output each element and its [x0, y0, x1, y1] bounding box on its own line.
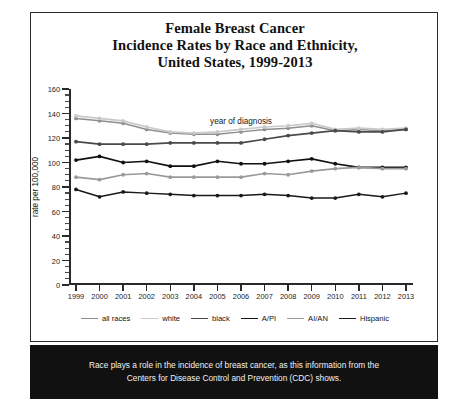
- y-tick-label: 20: [52, 256, 60, 265]
- chart-legend: all raceswhiteblackA/PIAI/ANHispanic: [31, 314, 439, 323]
- y-tick-label: 100: [48, 158, 60, 167]
- x-tick: [75, 284, 76, 291]
- legend-swatch: [191, 318, 208, 319]
- legend-swatch: [339, 318, 356, 319]
- x-tick: [264, 284, 265, 291]
- legend-item-white[interactable]: white: [141, 314, 180, 323]
- x-tick-label: 2005: [209, 292, 225, 301]
- legend-item-all-races[interactable]: all races: [81, 314, 130, 323]
- x-tick: [193, 284, 194, 291]
- y-tick-major: [62, 186, 69, 187]
- x-tick-label: 2001: [115, 292, 131, 301]
- legend-swatch: [81, 318, 98, 319]
- legend-swatch: [287, 318, 304, 319]
- y-tick-label: 60: [52, 207, 60, 216]
- x-tick: [99, 284, 100, 291]
- y-tick-label: 120: [48, 134, 60, 143]
- legend-label: white: [162, 314, 180, 323]
- y-tick-major: [62, 284, 69, 285]
- series-ai-an: [74, 166, 408, 182]
- x-tick: [217, 284, 218, 291]
- x-tick: [335, 284, 336, 291]
- caption-line-1: Race plays a role in the incidence of br…: [89, 359, 379, 372]
- y-tick-major: [62, 211, 69, 212]
- x-tick-label: 2000: [91, 292, 107, 301]
- x-tick-label: 2007: [256, 292, 272, 301]
- chart-figure: Female Breast Cancer Incidence Rates by …: [0, 0, 469, 399]
- x-tick-label: 2008: [280, 292, 296, 301]
- x-tick: [122, 284, 123, 291]
- x-tick-label: 2010: [327, 292, 343, 301]
- chart-title-line-1: Female Breast Cancer: [31, 20, 439, 37]
- x-tick: [311, 284, 312, 291]
- x-tick-label: 2002: [138, 292, 154, 301]
- cut-off-header-text: [0, 0, 469, 11]
- legend-label: AI/AN: [308, 314, 328, 323]
- y-tick-major: [62, 113, 69, 114]
- chart-title: Female Breast Cancer Incidence Rates by …: [31, 20, 439, 71]
- x-tick: [358, 284, 359, 291]
- y-tick-major: [62, 88, 69, 89]
- legend-item-ai-an[interactable]: AI/AN: [287, 314, 328, 323]
- x-tick-label: 2003: [162, 292, 178, 301]
- y-tick-label: 80: [52, 183, 60, 192]
- y-tick-label: 140: [48, 109, 60, 118]
- legend-label: Hispanic: [360, 314, 389, 323]
- x-tick-label: 2013: [398, 292, 414, 301]
- x-tick: [287, 284, 288, 291]
- caption-band: Race plays a role in the incidence of br…: [30, 345, 438, 399]
- chart-title-line-2: Incidence Rates by Race and Ethnicity,: [31, 37, 439, 54]
- x-tick-label: 2012: [374, 292, 390, 301]
- legend-swatch: [141, 318, 158, 319]
- legend-label: A/PI: [262, 314, 276, 323]
- x-tick-label: 2011: [351, 292, 367, 301]
- x-tick: [405, 284, 406, 291]
- y-axis-title: rate per 100,000: [31, 157, 40, 217]
- x-tick: [240, 284, 241, 291]
- y-tick-major: [62, 137, 69, 138]
- x-tick-label: 2006: [233, 292, 249, 301]
- x-tick: [382, 284, 383, 291]
- y-tick-major: [62, 260, 69, 261]
- y-tick-label: 0: [56, 281, 60, 290]
- chart-panel: Female Breast Cancer Incidence Rates by …: [30, 12, 438, 342]
- y-tick-label: 160: [48, 85, 60, 94]
- legend-swatch: [241, 318, 258, 319]
- x-tick: [170, 284, 171, 291]
- y-tick-label: 40: [52, 232, 60, 241]
- legend-item-a-pi[interactable]: A/PI: [241, 314, 276, 323]
- legend-label: all races: [102, 314, 130, 323]
- legend-item-hispanic[interactable]: Hispanic: [339, 314, 389, 323]
- series-hispanic: [74, 188, 408, 200]
- caption-line-2: Centers for Disease Control and Preventi…: [127, 372, 341, 385]
- y-tick-major: [62, 235, 69, 236]
- x-axis-title: year of diagnosis: [210, 117, 272, 126]
- x-tick-label: 2009: [303, 292, 319, 301]
- x-tick-label: 1999: [68, 292, 84, 301]
- legend-label: black: [212, 314, 230, 323]
- plot-area: 020406080100120140160 199920002001200220…: [69, 89, 413, 285]
- y-tick-major: [62, 162, 69, 163]
- x-tick-label: 2004: [186, 292, 202, 301]
- x-tick: [146, 284, 147, 291]
- chart-title-line-3: United States, 1999-2013: [31, 54, 439, 71]
- legend-item-black[interactable]: black: [191, 314, 230, 323]
